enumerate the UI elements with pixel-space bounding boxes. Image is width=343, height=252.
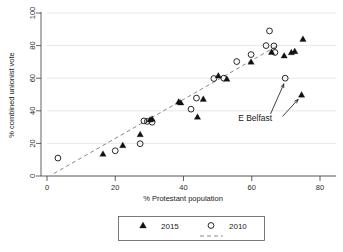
data-point-2015	[137, 131, 143, 137]
gridlines-group	[47, 13, 336, 176]
data-point-2015	[300, 36, 306, 42]
data-point-2015	[194, 114, 200, 120]
axes-group	[41, 12, 336, 176]
x-tick-label: 20	[111, 183, 119, 192]
annotation-arrow	[282, 99, 298, 116]
y-tick-label: 100	[28, 7, 37, 20]
data-point-2015	[100, 151, 106, 157]
y-tick-label: 20	[28, 139, 37, 147]
tick-labels-group: 020406080100020406080	[28, 7, 324, 192]
legend-label-2015: 2015	[161, 222, 179, 231]
scatter-chart-figure: E Belfast 020406080100020406080 % Protes…	[0, 0, 343, 252]
data-point-2015	[281, 52, 287, 58]
data-point-2015	[200, 96, 206, 102]
series-2010-points	[55, 28, 288, 161]
fit-line	[54, 45, 279, 174]
x-tick-label: 60	[248, 183, 256, 192]
series-2015-points	[100, 36, 306, 157]
data-point-2010	[137, 141, 143, 147]
data-point-2015	[215, 73, 221, 79]
annotation-arrow	[271, 84, 284, 114]
x-tick-label: 80	[316, 183, 324, 192]
data-point-2015	[292, 48, 298, 54]
data-point-2010	[188, 106, 194, 112]
data-point-2015	[248, 59, 254, 65]
tickmarks-group	[36, 13, 320, 181]
y-tick-label: 0	[28, 174, 37, 178]
legend-label-2010: 2010	[229, 222, 247, 231]
data-point-2010	[234, 59, 240, 65]
data-point-2010	[248, 52, 254, 58]
chart-legend: 2015 2010	[119, 217, 265, 241]
data-point-2010	[55, 155, 61, 161]
data-point-2010	[267, 28, 273, 34]
data-point-2015	[298, 92, 304, 98]
x-tick-label: 0	[45, 183, 49, 192]
data-point-2010	[112, 148, 118, 154]
data-point-2015	[224, 76, 230, 82]
data-point-2015	[120, 142, 126, 148]
chart-canvas: E Belfast 020406080100020406080 % Protes…	[0, 0, 343, 252]
y-tick-label: 40	[28, 107, 37, 115]
y-tick-label: 60	[28, 74, 37, 82]
x-tick-label: 40	[179, 183, 187, 192]
x-axis-title: % Protestant population	[143, 194, 223, 203]
data-point-2010	[194, 95, 200, 101]
annotation-label-e-belfast: E Belfast	[238, 113, 273, 123]
y-axis-title: % combined unionist vote	[7, 52, 16, 137]
y-tick-label: 80	[28, 41, 37, 49]
annotation-e-belfast: E Belfast	[238, 84, 298, 123]
fitted-values-line	[54, 45, 279, 174]
